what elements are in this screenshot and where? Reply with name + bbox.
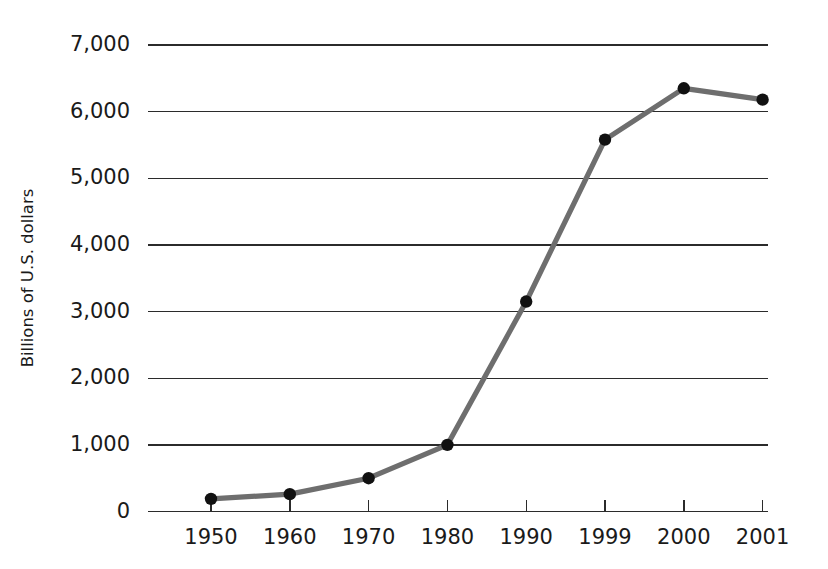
chart-figure: 01,0002,0003,0004,0005,0006,0007,000 195… (0, 0, 828, 569)
data-point-marker (284, 488, 296, 500)
data-point-marker (599, 133, 611, 145)
x-axis-tick-label: 1950 (184, 525, 237, 549)
x-axis-tick-label: 1980 (421, 525, 474, 549)
data-point-marker (441, 439, 453, 451)
data-point-marker (520, 295, 532, 307)
data-point-marker (678, 82, 690, 94)
y-axis-tick-label: 1,000 (70, 432, 130, 456)
y-axis-tick-label: 2,000 (70, 365, 130, 389)
data-point-marker (362, 472, 374, 484)
y-axis-tick-label: 5,000 (70, 165, 130, 189)
x-axis-tick-label: 2001 (736, 525, 789, 549)
x-axis-tick-label: 1999 (578, 525, 631, 549)
data-point-marker (205, 493, 217, 505)
y-axis-tick-label: 4,000 (70, 232, 130, 256)
y-axis-tick-label: 7,000 (70, 32, 130, 56)
x-axis-tick-label: 2000 (657, 525, 710, 549)
data-point-marker (756, 93, 768, 105)
y-axis-title: Billions of U.S. dollars (18, 189, 37, 368)
chart-background (0, 0, 828, 569)
y-axis-tick-label: 0 (117, 499, 130, 523)
line-chart-canvas: 01,0002,0003,0004,0005,0006,0007,000 195… (0, 0, 828, 569)
x-axis-tick-label: 1990 (499, 525, 552, 549)
y-axis-tick-label: 6,000 (70, 99, 130, 123)
x-axis-tick-label: 1960 (263, 525, 316, 549)
x-axis-tick-label: 1970 (342, 525, 395, 549)
y-axis-tick-label: 3,000 (70, 299, 130, 323)
